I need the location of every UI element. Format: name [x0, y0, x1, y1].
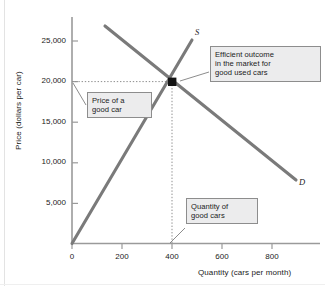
y-axis-ticks	[72, 41, 78, 203]
page-bottom-rule	[0, 284, 325, 285]
demand-curve-label: D	[299, 177, 305, 187]
leader-line-efficient	[180, 72, 209, 81]
page-left-rule	[4, 0, 5, 286]
callout-price-of-good-car: Price of a good car	[87, 92, 152, 118]
y-tick-label-25000: 25,000	[22, 36, 66, 45]
y-tick-label-10000: 10,000	[22, 157, 66, 166]
x-axis-ticks	[72, 244, 272, 250]
callout-efficient-outcome: Efficient outcome in the market for good…	[210, 46, 321, 82]
y-tick-label-5000: 5,000	[22, 198, 66, 207]
callout-quantity-of-good-cars: Quantity of good cars	[186, 198, 258, 224]
x-axis-title: Quantity (cars per month)	[198, 268, 291, 277]
x-tick-label-200: 200	[102, 252, 142, 261]
leader-line-price	[73, 83, 86, 105]
y-tick-label-15000: 15,000	[22, 117, 66, 126]
figure-supply-demand-good-used-cars: 25,000 20,000 15,000 10,000 5,000 0 200 …	[0, 0, 325, 286]
supply-curve-label: S	[195, 27, 199, 37]
y-tick-label-20000: 20,000	[22, 76, 66, 85]
x-tick-label-600: 600	[202, 252, 242, 261]
x-tick-label-400: 400	[152, 252, 192, 261]
x-tick-label-800: 800	[252, 252, 292, 261]
equilibrium-marker	[168, 78, 176, 86]
x-tick-label-0: 0	[52, 252, 92, 261]
supply-curve	[72, 40, 192, 244]
y-axis-title: Price (dollars per car)	[14, 56, 23, 166]
